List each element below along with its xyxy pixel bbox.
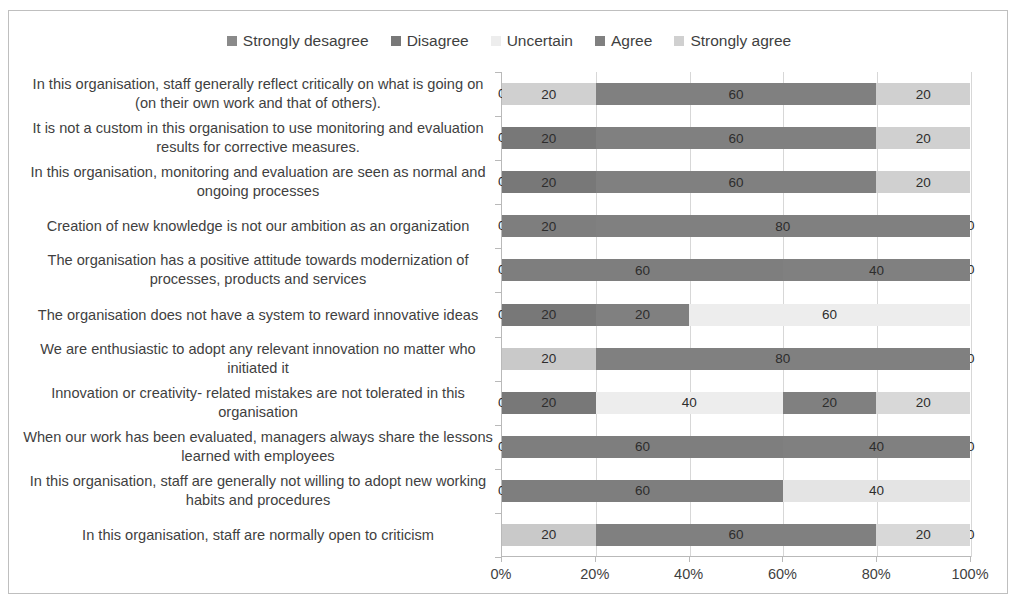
bar-value-label: 60: [822, 307, 837, 322]
bar-value-label: 20: [822, 395, 837, 410]
bar-segment[interactable]: 20: [876, 171, 970, 193]
legend-swatch-icon: [227, 36, 237, 46]
bar-value-label: 20: [635, 307, 650, 322]
bar-row[interactable]: 206020: [502, 127, 970, 149]
bar-row[interactable]: 206020: [502, 83, 970, 105]
y-tick: [495, 469, 501, 470]
category-label: In this organisation, monitoring and eva…: [23, 163, 493, 201]
category-label: It is not a custom in this organisation …: [23, 119, 493, 157]
legend-label: Strongly desagree: [243, 32, 369, 50]
x-tick-label: 20%: [580, 566, 609, 582]
bar-segment[interactable]: 40: [783, 436, 970, 458]
legend-label: Agree: [611, 32, 652, 50]
x-tick-label: 40%: [674, 566, 703, 582]
bar-row[interactable]: 2080: [502, 215, 970, 237]
bar-value-label: 40: [869, 263, 884, 278]
bar-segment[interactable]: 20: [502, 348, 596, 370]
y-tick: [495, 425, 501, 426]
bar-segment[interactable]: 20: [876, 524, 970, 546]
gridline-100: [971, 72, 972, 557]
category-label: The organisation does not have a system …: [23, 305, 493, 324]
legend-label: Strongly agree: [690, 32, 791, 50]
bar-value-label: 40: [869, 483, 884, 498]
bar-value-label: 20: [541, 351, 556, 366]
bar-value-label: 60: [635, 439, 650, 454]
bar-row[interactable]: 6040: [502, 436, 970, 458]
bar-segment[interactable]: 20: [502, 83, 596, 105]
bar-segment[interactable]: 60: [502, 436, 783, 458]
bar-segment[interactable]: 60: [596, 127, 877, 149]
bar-segment[interactable]: 80: [596, 348, 970, 370]
bar-value-label: 20: [541, 175, 556, 190]
bar-segment[interactable]: 20: [502, 304, 596, 326]
x-tick-mark: [689, 556, 690, 562]
bar-segment[interactable]: 20: [876, 127, 970, 149]
y-tick: [495, 337, 501, 338]
bar-segment[interactable]: 60: [596, 524, 877, 546]
bar-row[interactable]: 206020: [502, 171, 970, 193]
bar-segment[interactable]: 20: [502, 524, 596, 546]
category-label: In this organisation, staff are normally…: [23, 525, 493, 544]
legend-item-3[interactable]: Agree: [595, 32, 652, 50]
legend-item-4[interactable]: Strongly agree: [674, 32, 791, 50]
bar-row[interactable]: 2080: [502, 348, 970, 370]
bar-segment[interactable]: 60: [689, 304, 970, 326]
category-label: In this organisation, staff generally re…: [23, 75, 493, 113]
bar-segment[interactable]: 80: [596, 215, 970, 237]
bar-segment[interactable]: 20: [596, 304, 690, 326]
x-tick-mark: [782, 556, 783, 562]
bar-row[interactable]: 6040: [502, 259, 970, 281]
bar-row[interactable]: 206020: [502, 524, 970, 546]
bar-value-label: 60: [635, 483, 650, 498]
bar-value-label: 20: [916, 175, 931, 190]
category-label: We are enthusiastic to adopt any relevan…: [23, 340, 493, 378]
bar-value-label: 60: [635, 263, 650, 278]
legend-swatch-icon: [595, 36, 605, 46]
chart-legend: Strongly desagreeDisagreeUncertainAgreeS…: [0, 32, 1018, 50]
bar-segment[interactable]: 20: [502, 215, 596, 237]
legend-swatch-icon: [491, 36, 501, 46]
legend-swatch-icon: [674, 36, 684, 46]
bar-segment[interactable]: 40: [596, 392, 783, 414]
y-tick: [495, 513, 501, 514]
bar-value-label: 20: [541, 131, 556, 146]
bar-segment[interactable]: 40: [783, 480, 970, 502]
bar-row[interactable]: 20402020: [502, 392, 970, 414]
bar-value-label: 40: [682, 395, 697, 410]
category-label: The organisation has a positive attitude…: [23, 251, 493, 289]
category-label: Innovation or creativity- related mistak…: [23, 384, 493, 422]
bar-segment[interactable]: 60: [596, 83, 877, 105]
category-label: Creation of new knowledge is not our amb…: [23, 217, 493, 236]
x-tick-label: 100%: [951, 566, 988, 582]
legend-label: Disagree: [407, 32, 469, 50]
bar-segment[interactable]: 60: [502, 259, 783, 281]
bar-segment[interactable]: 20: [502, 171, 596, 193]
x-tick-mark: [595, 556, 596, 562]
bar-segment[interactable]: 20: [502, 127, 596, 149]
y-tick: [495, 292, 501, 293]
bar-row[interactable]: 202060: [502, 304, 970, 326]
legend-item-1[interactable]: Disagree: [391, 32, 469, 50]
bar-value-label: 20: [541, 219, 556, 234]
bar-segment[interactable]: 60: [596, 171, 877, 193]
bar-segment[interactable]: 20: [876, 83, 970, 105]
bar-segment[interactable]: 60: [502, 480, 783, 502]
bar-value-label: 20: [916, 527, 931, 542]
category-label: When our work has been evaluated, manage…: [23, 428, 493, 466]
x-tick-label: 60%: [768, 566, 797, 582]
x-tick-mark: [501, 556, 502, 562]
bar-value-label: 60: [728, 87, 743, 102]
bar-value-label: 20: [541, 527, 556, 542]
y-tick: [495, 72, 501, 73]
bar-segment[interactable]: 20: [876, 392, 970, 414]
legend-item-0[interactable]: Strongly desagree: [227, 32, 369, 50]
y-tick: [495, 381, 501, 382]
x-tick-mark: [970, 556, 971, 562]
bar-row[interactable]: 6040: [502, 480, 970, 502]
category-label: In this organisation, staff are generall…: [23, 472, 493, 510]
bar-segment[interactable]: 20: [783, 392, 877, 414]
bar-segment[interactable]: 40: [783, 259, 970, 281]
legend-item-2[interactable]: Uncertain: [491, 32, 573, 50]
bar-value-label: 40: [869, 439, 884, 454]
bar-segment[interactable]: 20: [502, 392, 596, 414]
